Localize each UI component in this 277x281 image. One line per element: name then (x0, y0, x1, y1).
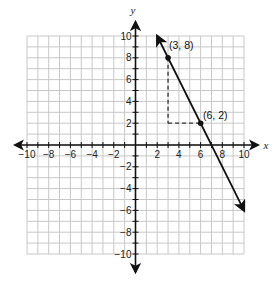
y-tick-label: −6 (120, 205, 132, 216)
y-tick-label: −4 (120, 183, 132, 194)
y-tick-label: −10 (115, 249, 132, 260)
y-tick-label: −8 (120, 227, 132, 238)
y-tick-label: 2 (126, 118, 132, 129)
y-tick-label: 6 (126, 74, 132, 85)
x-tick-label: 8 (220, 149, 226, 160)
y-tick-label: −2 (120, 161, 132, 172)
x-tick-label: −2 (108, 149, 120, 160)
y-tick-label: 10 (120, 31, 132, 42)
point-label-6-2: (6, 2) (203, 109, 228, 121)
y-tick-label: 4 (126, 96, 132, 107)
x-tick-label: −4 (86, 149, 98, 160)
x-tick-label: 6 (198, 149, 204, 160)
x-tick-label: −6 (65, 149, 77, 160)
coordinate-plane: −10−8−6−4−2246810 108642−2−4−6−8−10 y x … (0, 0, 277, 281)
x-tick-label: −8 (43, 149, 55, 160)
x-tick-label: 2 (154, 149, 160, 160)
point-dot (198, 120, 204, 126)
x-axis-label: x (263, 139, 269, 151)
x-tick-label: 4 (176, 149, 182, 160)
point-dot (165, 55, 171, 61)
x-tick-label: 10 (238, 149, 250, 160)
y-tick-label: 8 (126, 52, 132, 63)
x-tick-label: −10 (19, 149, 36, 160)
axes (15, 22, 258, 272)
point-label-3-8: (3, 8) (169, 39, 194, 51)
y-axis-label: y (130, 4, 136, 16)
